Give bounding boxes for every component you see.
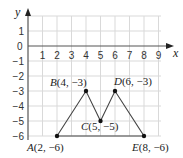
label-d: D(6, −3) bbox=[113, 75, 152, 88]
svg-text:−1: −1 bbox=[13, 56, 25, 67]
label-a: A(2, −6) bbox=[26, 141, 64, 154]
svg-text:7: 7 bbox=[127, 50, 133, 61]
y-axis-arrow-icon bbox=[25, 8, 31, 16]
point-a bbox=[55, 134, 59, 138]
svg-text:9: 9 bbox=[156, 50, 162, 61]
coordinate-plane: y x 0 1 2 3 4 5 6 7 8 9 1 −1 −2 −3 −4 −5… bbox=[0, 0, 183, 158]
origin-label: 0 bbox=[17, 41, 23, 52]
svg-text:−3: −3 bbox=[13, 86, 25, 97]
svg-text:−2: −2 bbox=[13, 71, 25, 82]
point-e bbox=[142, 134, 146, 138]
svg-text:−5: −5 bbox=[13, 116, 25, 127]
x-axis-label: x bbox=[172, 46, 179, 60]
label-c: C(5, −5) bbox=[81, 120, 119, 133]
label-e: E(8, −6) bbox=[131, 141, 169, 154]
svg-text:8: 8 bbox=[141, 50, 147, 61]
label-b: B(4, −3) bbox=[50, 76, 87, 89]
svg-text:4: 4 bbox=[83, 50, 89, 61]
y-axis-label: y bbox=[14, 5, 21, 19]
svg-text:−4: −4 bbox=[13, 101, 25, 112]
svg-text:5: 5 bbox=[98, 50, 104, 61]
point-d bbox=[113, 89, 117, 93]
svg-text:−6: −6 bbox=[13, 131, 25, 142]
svg-text:2: 2 bbox=[54, 50, 60, 61]
svg-text:1: 1 bbox=[18, 26, 24, 37]
svg-text:3: 3 bbox=[69, 50, 75, 61]
point-b bbox=[84, 89, 88, 93]
svg-text:6: 6 bbox=[112, 50, 118, 61]
x-tick-labels: 1 2 3 4 5 6 7 8 9 bbox=[40, 50, 162, 61]
svg-text:1: 1 bbox=[40, 50, 46, 61]
